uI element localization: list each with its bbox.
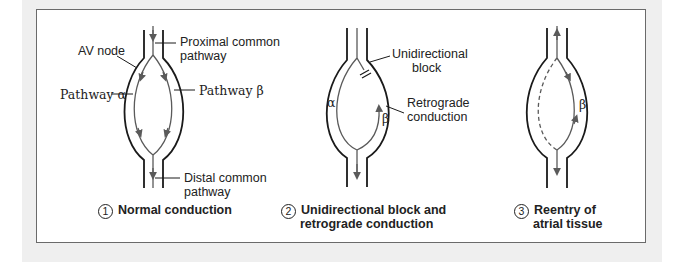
label-retro-2: conduction [407,111,467,124]
caption-number-3: 3 [514,204,529,219]
label-retro-1: Retrograde [407,97,470,110]
label-proximal-2: pathway [180,50,227,63]
caption-3-line1: Reentry of [534,203,596,217]
caption-3-line2: atrial tissue [533,218,602,231]
caption-2-line1: Unidirectional block and [301,203,446,217]
label-proximal-1: Proximal common [180,36,280,49]
caption-number-2: 2 [281,204,296,219]
caption-1: 1Normal conduction [98,204,232,219]
label-block-2: block [412,62,441,75]
caption-2-line2: retrograde conduction [300,218,433,231]
label-alpha: α [327,96,335,109]
caption-number-1: 1 [98,204,113,219]
label-beta-2: β [382,112,389,125]
label-distal-2: pathway [184,186,231,199]
label-av-node: AV node [78,45,125,58]
label-pathway-beta: Pathway β [199,84,264,97]
label-beta-3: β [579,98,586,111]
label-block-1: Unidirectional [392,48,468,61]
label-pathway-alpha: Pathway α [60,88,126,101]
label-distal-1: Distal common [184,172,267,185]
caption-1-text: Normal conduction [118,203,232,217]
